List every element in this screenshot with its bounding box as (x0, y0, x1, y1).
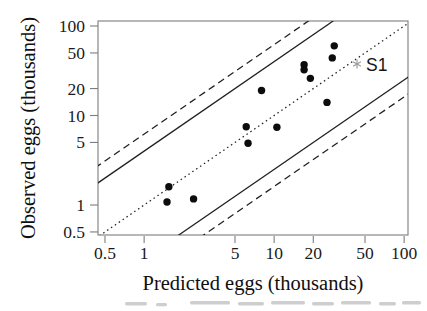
x-tick-label: 0.5 (94, 243, 116, 263)
data-point (258, 87, 265, 94)
s1-point: S1 (353, 55, 387, 75)
data-point (165, 183, 172, 190)
x-axis-title: Predicted eggs (thousands) (143, 272, 364, 295)
data-point (307, 75, 314, 82)
data-point (331, 42, 338, 49)
data-point (190, 195, 197, 202)
upper-dashed-band (76, 0, 427, 181)
y-tick-label: 50 (68, 43, 86, 63)
s1-point-label: S1 (366, 55, 387, 75)
data-point (300, 66, 307, 73)
y-tick-label: 0.5 (63, 222, 85, 242)
cutoff-caption-artifact (125, 301, 421, 306)
upper-solid-band (76, 0, 427, 198)
y-tick-label: 20 (68, 79, 86, 99)
data-point (323, 99, 330, 106)
scatter-plot-figure: 0.515102050100100502010510.5 Predicted e… (0, 0, 427, 311)
identity-line (76, 10, 427, 252)
x-tick-label: 1 (140, 243, 149, 263)
data-points (163, 42, 338, 206)
data-point (329, 54, 336, 61)
x-tick-label: 50 (356, 243, 374, 263)
plot-frame (98, 21, 408, 235)
data-point (273, 124, 280, 131)
lower-solid-band (76, 64, 427, 306)
data-point (244, 140, 251, 147)
data-point (243, 123, 250, 130)
y-tick-label: 1 (76, 195, 85, 215)
y-tick-label: 5 (76, 132, 85, 152)
asterisk-marker-icon (353, 60, 361, 69)
chart-svg: 0.515102050100100502010510.5 Predicted e… (0, 0, 427, 311)
x-tick-label: 10 (265, 243, 283, 263)
x-tick-label: 5 (231, 243, 240, 263)
y-tick-label: 100 (59, 16, 86, 36)
reference-lines (76, 0, 427, 311)
axis-ticks: 0.515102050100100502010510.5 (59, 16, 418, 263)
x-tick-label: 100 (391, 243, 418, 263)
x-tick-label: 20 (305, 243, 323, 263)
data-point (163, 198, 170, 205)
y-axis-title: Observed eggs (thousands) (17, 17, 40, 239)
y-tick-label: 10 (68, 106, 86, 126)
